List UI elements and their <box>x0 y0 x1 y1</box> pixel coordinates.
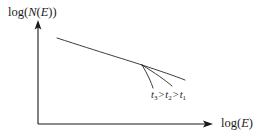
x-label-log: log( <box>221 116 241 130</box>
annotation-sub3: 3 <box>154 94 158 102</box>
x-label-close-paren: ) <box>249 116 253 130</box>
annotation-gt-2: > <box>172 89 180 100</box>
curve-ordering-annotation: t3>t2>t1 <box>151 90 186 101</box>
main-powerlaw-curve <box>57 38 142 65</box>
log-log-spectrum-figure: log(N(E)) log(E) t3>t2>t1 <box>0 0 268 139</box>
axes-group <box>35 20 213 127</box>
spectrum-curves-group <box>57 38 185 88</box>
y-axis-label: log(N(E)) <box>8 6 57 19</box>
annotation-sub2: 2 <box>168 94 172 102</box>
curve-t2 <box>142 65 172 86</box>
y-label-log: log( <box>8 5 28 19</box>
x-axis-label: log(E) <box>221 117 253 130</box>
annotation-sub1: 1 <box>183 94 187 102</box>
x-label-variable-e: E <box>241 116 249 130</box>
y-label-close-parens: )) <box>48 5 56 19</box>
